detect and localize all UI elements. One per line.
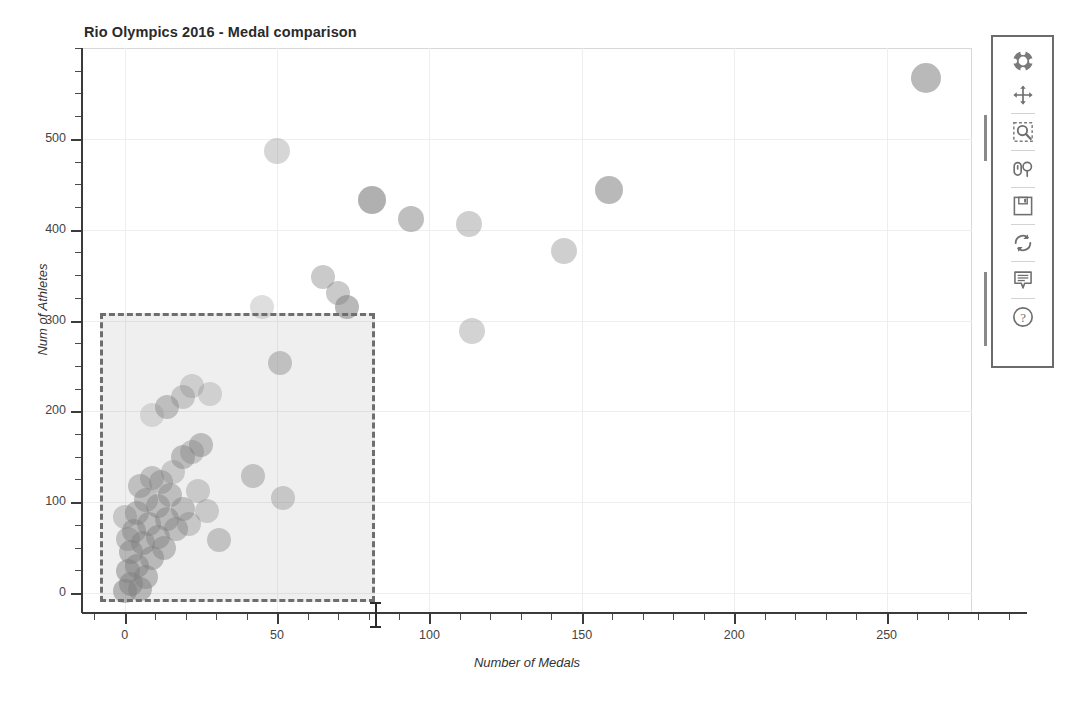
x-axis-minor-tick — [186, 613, 187, 620]
hover-tooltip-icon[interactable] — [1003, 263, 1043, 297]
x-axis-minor-tick — [94, 613, 95, 620]
x-axis-tick — [277, 613, 279, 624]
y-axis-tick-label: 200 — [20, 403, 66, 417]
toolbar-separator — [1011, 187, 1035, 188]
ibeam-stem — [375, 602, 377, 628]
pan-icon[interactable] — [1003, 78, 1043, 112]
x-axis-minor-tick — [795, 613, 796, 620]
x-axis-minor-tick — [704, 613, 705, 620]
x-axis-tick-label: 150 — [552, 628, 612, 642]
bokeh-logo-icon[interactable] — [1003, 44, 1043, 78]
y-axis-tick-label: 0 — [20, 585, 66, 599]
scatter-point[interactable] — [456, 211, 482, 237]
save-disk-icon[interactable] — [1003, 189, 1043, 223]
x-axis-tick — [734, 613, 736, 624]
scatter-point[interactable] — [398, 206, 424, 232]
box-zoom-icon[interactable] — [1003, 115, 1043, 149]
x-axis-minor-tick — [216, 613, 217, 620]
x-axis-tick-label: 250 — [857, 628, 917, 642]
x-axis-label: Number of Medals — [82, 655, 972, 670]
x-axis-minor-tick — [308, 613, 309, 620]
bokeh-toolbar[interactable]: ? — [991, 35, 1054, 368]
y-axis-tick-label: 500 — [20, 131, 66, 145]
toolbar-separator — [1011, 298, 1035, 299]
box-select-region[interactable] — [100, 313, 374, 602]
y-axis-tick-label: 100 — [20, 494, 66, 508]
toolbar-separator — [1011, 224, 1035, 225]
x-axis-minor-tick — [978, 613, 979, 620]
x-axis-tick — [582, 613, 584, 624]
x-axis-minor-tick — [643, 613, 644, 620]
x-axis-minor-tick — [1009, 613, 1010, 620]
scroll-rail-mark-lower — [984, 272, 987, 346]
x-axis-minor-tick — [948, 613, 949, 620]
x-axis-tick-label: 0 — [95, 628, 155, 642]
x-axis-minor-tick — [521, 613, 522, 620]
scatter-point[interactable] — [551, 238, 577, 264]
scatter-point[interactable] — [595, 176, 623, 204]
wheel-zoom-icon[interactable] — [1003, 152, 1043, 186]
y-axis-label: Num of Athletes — [35, 230, 50, 390]
x-axis-minor-tick — [399, 613, 400, 620]
ibeam-bottom-bar — [370, 626, 381, 628]
x-axis-minor-tick — [460, 613, 461, 620]
help-question-icon[interactable]: ? — [1003, 300, 1043, 334]
scroll-rail-mark-upper — [984, 115, 987, 161]
x-axis-minor-tick — [612, 613, 613, 620]
svg-text:?: ? — [1020, 311, 1026, 325]
page-title: Rio Olympics 2016 - Medal comparison — [84, 24, 357, 40]
x-axis-minor-tick — [247, 613, 248, 620]
x-axis-minor-tick — [917, 613, 918, 620]
x-axis-tick-label: 200 — [704, 628, 764, 642]
scatter-point[interactable] — [358, 186, 386, 214]
y-axis-line — [81, 48, 83, 613]
x-axis-minor-tick — [551, 613, 552, 620]
x-axis-minor-tick — [673, 613, 674, 620]
scatter-point[interactable] — [459, 318, 485, 344]
reset-icon[interactable] — [1003, 226, 1043, 260]
x-axis-minor-tick — [856, 613, 857, 620]
toolbar-separator — [1011, 261, 1035, 262]
scatter-point[interactable] — [264, 138, 290, 164]
x-axis-minor-tick — [826, 613, 827, 620]
x-axis-tick — [887, 613, 889, 624]
x-axis-tick-label: 100 — [399, 628, 459, 642]
x-axis-minor-tick — [490, 613, 491, 620]
x-axis-minor-tick — [155, 613, 156, 620]
text-ibeam-cursor — [370, 602, 381, 628]
x-axis-line — [82, 612, 1027, 614]
x-axis-tick — [125, 613, 127, 624]
x-axis-tick-label: 50 — [247, 628, 307, 642]
toolbar-separator — [1011, 150, 1035, 151]
toolbar-separator — [1011, 113, 1035, 114]
x-axis-minor-tick — [765, 613, 766, 620]
chart-canvas: Rio Olympics 2016 - Medal comparison 010… — [0, 0, 1079, 701]
scatter-point[interactable] — [911, 63, 941, 93]
x-axis-tick — [429, 613, 431, 624]
x-axis-minor-tick — [338, 613, 339, 620]
